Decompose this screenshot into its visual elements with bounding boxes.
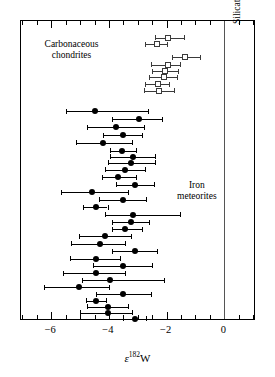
axis-tick-bottom-minor <box>95 315 96 319</box>
error-bar-cap <box>132 310 133 315</box>
axis-tick-bottom-minor <box>181 315 182 319</box>
error-bar-cap <box>151 62 152 67</box>
carbonaceous-data-point <box>161 74 167 80</box>
error-bar-cap <box>108 205 109 210</box>
error-bar-cap <box>145 82 146 87</box>
iron-meteorite-data-point <box>122 226 128 232</box>
iron-label-line2: meteorites <box>177 191 217 202</box>
iron-meteorite-data-point <box>93 256 99 262</box>
iron-label-line1: Iron <box>177 180 217 191</box>
axis-tick-top-major <box>167 21 168 28</box>
axis-tick-top-minor <box>181 21 182 25</box>
iron-meteorite-data-point <box>128 160 134 166</box>
axis-tick-bottom-minor <box>195 315 196 319</box>
error-bar-cap <box>131 234 132 239</box>
axis-tick-top-minor <box>195 21 196 25</box>
axis-tick-top-minor <box>152 21 153 25</box>
axis-tick-top-major <box>51 21 52 28</box>
error-bar-cap <box>128 190 129 195</box>
error-bar-cap <box>99 197 100 202</box>
error-bar-cap <box>184 35 185 40</box>
iron-meteorite-data-point <box>120 263 126 269</box>
iron-meteorite-data-point <box>120 197 126 203</box>
error-bar-cap <box>177 75 178 80</box>
error-bar-cap <box>76 140 77 145</box>
error-bar-cap <box>110 148 111 153</box>
error-bar-cap <box>145 167 146 172</box>
error-bar-cap <box>146 197 147 202</box>
error-bar-cap <box>103 133 104 138</box>
error-bar-cap <box>162 117 163 122</box>
figure-canvas: Carbonaceous chondrites Iron meteorites … <box>0 0 275 377</box>
iron-meteorite-data-point <box>107 277 113 283</box>
error-bar-cap <box>148 109 149 114</box>
error-bar-cap <box>87 304 88 309</box>
error-bar-cap <box>123 316 124 321</box>
error-bar-cap <box>146 316 147 321</box>
axis-tick-top-minor <box>66 21 67 25</box>
iron-meteorite-data-point <box>102 233 108 239</box>
axis-tick-bottom-minor <box>210 315 211 319</box>
iron-meteorites-label: Iron meteorites <box>177 180 217 202</box>
error-bar-cap <box>109 285 110 290</box>
carbonaceous-data-point <box>165 62 171 68</box>
axis-tick-bottom-major <box>51 312 52 319</box>
carbonaceous-chondrites-label: Carbonaceous chondrites <box>45 39 99 61</box>
error-bar <box>66 111 148 112</box>
error-bar-cap <box>82 278 83 283</box>
iron-meteorite-data-point <box>105 310 111 316</box>
iron-meteorite-data-point <box>89 189 95 195</box>
carbonaceous-data-point <box>182 54 188 60</box>
error-bar-cap <box>180 62 181 67</box>
error-bar-cap <box>125 271 126 276</box>
iron-meteorite-data-point <box>115 174 121 180</box>
axis-tick-top-minor <box>80 21 81 25</box>
error-bar-cap <box>105 212 106 217</box>
axis-tick-bottom-minor <box>66 315 67 319</box>
x-axis-title: ε182W <box>0 350 275 364</box>
x-tick-label: 0 <box>221 324 226 335</box>
error-bar-cap <box>145 42 146 47</box>
x-tick-label: −2 <box>160 324 171 335</box>
iron-meteorite-data-point <box>93 204 99 210</box>
axis-tick-top-minor <box>37 21 38 25</box>
x-tick-label: −4 <box>102 324 113 335</box>
axis-tick-top-minor <box>138 21 139 25</box>
iron-meteorite-data-point <box>113 124 119 130</box>
iron-meteorite-data-point <box>119 148 125 154</box>
error-bar-cap <box>66 109 67 114</box>
error-bar-cap <box>93 263 94 268</box>
error-bar-cap <box>142 133 143 138</box>
error-bar-cap <box>152 263 153 268</box>
error-bar-cap <box>144 125 145 130</box>
error-bar-cap <box>112 249 113 254</box>
carbonaceous-data-point <box>156 88 162 94</box>
iron-meteorite-data-point <box>132 248 138 254</box>
error-bar-cap <box>79 234 80 239</box>
error-bar-cap <box>155 35 156 40</box>
error-bar-cap <box>155 160 156 165</box>
iron-meteorite-data-point <box>92 108 98 114</box>
error-bar-cap <box>96 292 97 297</box>
error-bar-cap <box>155 154 156 159</box>
iron-meteorite-data-point <box>93 270 99 276</box>
x-tick-label: −6 <box>45 324 56 335</box>
error-bar-cap <box>105 167 106 172</box>
error-bar-cap <box>108 160 109 165</box>
error-bar-cap <box>61 190 62 195</box>
error-bar-cap <box>112 227 113 232</box>
silicate-earth-reference-line <box>224 21 225 319</box>
axis-tick-top-minor <box>123 21 124 25</box>
error-bar-cap <box>136 175 137 180</box>
axis-tick-bottom-minor <box>22 315 23 319</box>
error-bar-cap <box>152 69 153 74</box>
axis-tick-bottom-minor <box>239 315 240 319</box>
error-bar-cap <box>106 298 107 303</box>
iron-meteorite-data-point <box>76 284 82 290</box>
error-bar-cap <box>87 125 88 130</box>
error-bar-cap <box>70 256 71 261</box>
carbonaceous-data-point <box>165 35 171 41</box>
error-bar-cap <box>180 212 181 217</box>
error-bar-cap <box>116 182 117 187</box>
error-bar-cap <box>44 285 45 290</box>
